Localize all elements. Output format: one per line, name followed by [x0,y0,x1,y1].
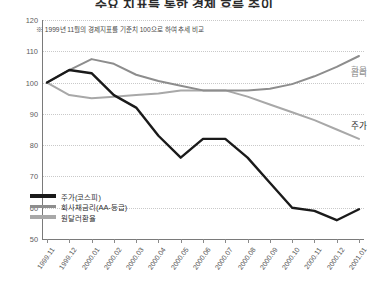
legend-color-swatch [30,215,56,218]
x-axis-tick-label: 2000.05 [169,246,189,271]
annotation-kospi: 주가 [351,119,367,131]
x-axis-tick-label: 2000.04 [147,246,167,271]
x-axis-tick-label: 1999.11 [36,246,56,270]
x-axis-tick-mark [158,239,159,243]
annotation-fx: 환율 [351,64,367,76]
x-axis-tick-label: 2000.03 [125,246,145,271]
y-axis-tick-label: 100 [26,78,38,87]
legend-item[interactable]: 회사채금리(AA-등급) [30,202,127,212]
legend-color-swatch [30,194,56,197]
legend-item-label: 원달러환율 [61,212,96,223]
x-axis-tick-label: 1999.12 [58,246,78,271]
legend-item[interactable]: 주가(코스피) [30,191,127,201]
x-axis-tick-label: 2000.12 [325,246,345,271]
x-axis-tick-label: 2000.06 [191,246,211,271]
y-axis-tick-label: 80 [30,141,38,150]
x-axis-tick-mark [92,239,93,243]
y-axis-tick-label: 90 [30,109,38,118]
x-axis-tick-mark [136,239,137,243]
x-axis-tick-mark [203,239,204,243]
x-axis-tick-mark [181,239,182,243]
x-axis-tick-mark [314,239,315,243]
x-axis-tick-label: 2000.11 [303,246,323,270]
x-axis-tick-mark [359,239,360,243]
x-axis-tick-label: 2001.01 [347,246,367,271]
y-axis-tick-label: 70 [30,172,38,181]
y-axis-tick-label: 110 [26,47,38,56]
y-axis-tick-label: 50 [30,235,38,244]
legend-color-swatch [30,205,56,208]
legend-item-label: 회사채금리(AA-등급) [61,201,127,212]
legend-item-label: 주가(코스피) [61,191,101,202]
x-axis-tick-mark [248,239,249,243]
x-axis-tick-mark [225,239,226,243]
x-axis-tick-label: 2000.07 [214,246,234,271]
x-axis-tick-mark [270,239,271,243]
chart-figure: 주요 지표를 통한 경제 흐름 추이 ※ 1999년 11월의 경제지표를 기준… [0,0,368,281]
y-axis-tick-label: 120 [26,16,38,25]
legend: 주가(코스피)회사채금리(AA-등급)원달러환율 [30,191,127,223]
x-axis-tick-mark [114,239,115,243]
series-line [47,56,359,90]
x-axis-tick-label: 2000.02 [102,246,122,271]
x-axis-tick-label: 2000.09 [258,246,278,271]
x-axis-tick-label: 2000.08 [236,246,256,271]
x-axis-tick-label: 2000.10 [281,246,301,271]
x-axis-tick-mark [69,239,70,243]
legend-item[interactable]: 원달러환율 [30,212,127,222]
page-title: 주요 지표를 통한 경제 흐름 추이 [0,0,368,8]
x-axis-tick-mark [292,239,293,243]
x-axis-tick-label: 2000.01 [80,246,100,271]
x-axis-tick-mark [337,239,338,243]
x-axis-tick-mark [47,239,48,243]
